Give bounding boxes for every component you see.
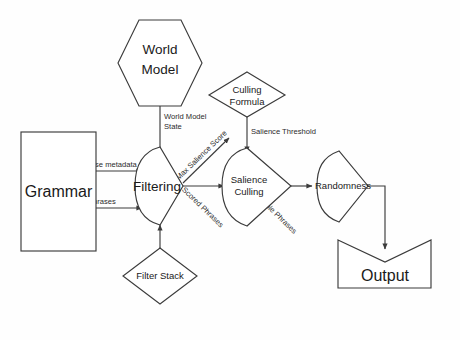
filter-stack-label: Filter Stack	[136, 270, 184, 281]
edge-label-world-model-state-line2: State	[164, 122, 182, 131]
flowchart-svg: World Model State Phrase metadata Phrase…	[0, 0, 460, 340]
node-world-model[interactable]: World Model	[118, 20, 202, 106]
edge-max-salience-score: Max Salience Score	[174, 129, 229, 183]
grammar-label: Grammar	[25, 183, 93, 200]
edge-label-max-salience-score: Max Salience Score	[174, 129, 229, 182]
salience-culling-label-line1: Salience	[231, 174, 267, 185]
world-model-label-line1: World	[142, 42, 177, 57]
node-culling-formula[interactable]: Culling Formula	[209, 72, 285, 117]
node-grammar[interactable]: Grammar	[21, 132, 96, 251]
edge-scored-phrases: Scored Phrases	[180, 185, 225, 229]
world-model-label-line2: Model	[142, 62, 179, 77]
culling-formula-label-line2: Formula	[230, 96, 266, 107]
output-label: Output	[361, 267, 410, 284]
flowchart-canvas: World Model State Phrase metadata Phrase…	[0, 0, 460, 340]
node-filtering[interactable]: Filtering	[133, 147, 183, 225]
node-randomness[interactable]: Randomness	[315, 151, 371, 222]
salience-culling-label-line2: Culling	[234, 186, 263, 197]
culling-formula-label-line1: Culling	[232, 84, 261, 95]
edge-label-salience-threshold: Salience Threshold	[251, 127, 316, 136]
edge-salience-threshold: Salience Threshold	[247, 117, 316, 152]
edge-randomness-to-output	[368, 186, 385, 249]
edge-label-scored-phrases: Scored Phrases	[180, 185, 225, 229]
randomness-label: Randomness	[315, 180, 371, 191]
node-filter-stack[interactable]: Filter Stack	[123, 248, 197, 304]
filtering-label: Filtering	[133, 179, 181, 194]
edge-label-world-model-state-line1: World Model	[164, 112, 207, 121]
